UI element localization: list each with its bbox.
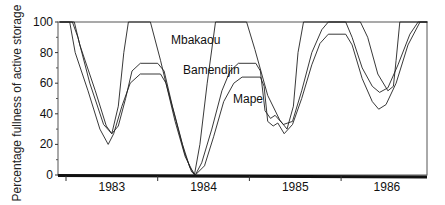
x-tick-label: 1983 xyxy=(98,180,125,194)
series-label-mape: Mape xyxy=(233,92,263,106)
chart-canvas xyxy=(0,0,445,205)
y-tick-label: 80 xyxy=(40,46,53,60)
y-tick-label: 40 xyxy=(40,107,53,121)
y-tick-label: 60 xyxy=(40,76,53,90)
series-label-bamendjin: Bamendjin xyxy=(183,63,240,77)
series-label-mbakaou: Mbakaou xyxy=(171,33,220,47)
y-tick-label: 0 xyxy=(46,168,53,182)
y-tick-label: 20 xyxy=(40,137,53,151)
x-tick-label: 1985 xyxy=(282,180,309,194)
x-axis xyxy=(58,176,427,178)
x-tick-label: 1984 xyxy=(190,180,217,194)
x-tick-label: 1986 xyxy=(374,180,401,194)
y-tick-label: 100 xyxy=(33,15,53,29)
y-axis-label: Percentage fullness of active storage xyxy=(10,5,24,202)
